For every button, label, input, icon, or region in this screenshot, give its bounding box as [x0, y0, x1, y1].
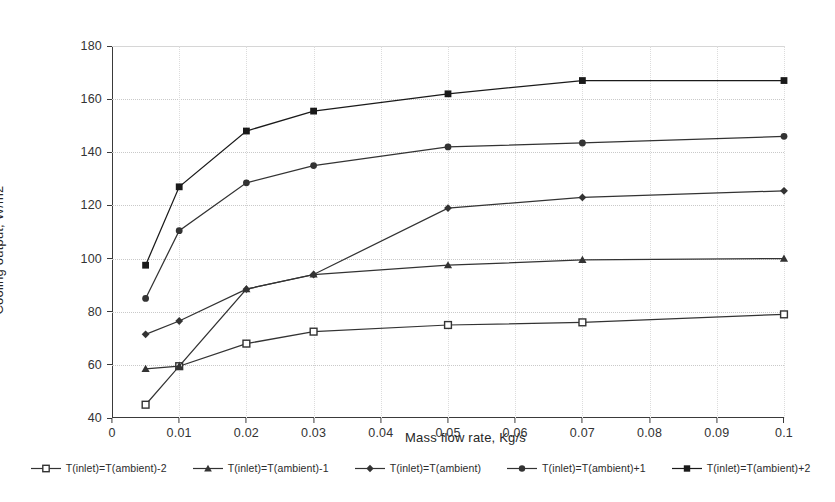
y-tick-label: 180: [81, 39, 107, 53]
x-tick-mark: [649, 418, 650, 423]
chart-figure: 406080100120140160180 00.010.020.030.040…: [0, 0, 835, 502]
y-tick-label: 80: [88, 305, 107, 319]
y-tick-140: 140: [81, 145, 112, 159]
series-line: [146, 191, 784, 334]
data-point: [142, 330, 150, 338]
y-tick-180: 180: [81, 39, 112, 53]
legend-label: T(inlet)=T(ambient)+2: [707, 462, 811, 474]
series-line: [146, 136, 784, 298]
y-tick-60: 60: [88, 358, 112, 372]
y-tick-160: 160: [81, 92, 112, 106]
y-tick-label: 120: [81, 198, 107, 212]
data-point: [781, 77, 788, 84]
x-tick-mark: [246, 418, 247, 423]
data-point: [579, 140, 586, 147]
y-tick-120: 120: [81, 198, 112, 212]
data-point: [176, 227, 183, 234]
legend-item-2[interactable]: T(inlet)=T(ambient): [355, 462, 481, 474]
data-point: [243, 128, 250, 135]
y-tick-label: 100: [81, 252, 107, 266]
x-tick-mark: [313, 418, 314, 423]
data-point: [310, 162, 317, 169]
y-axis-label: Cooling output, W/m2: [0, 150, 6, 350]
series-3: [142, 133, 787, 302]
data-point: [445, 90, 452, 97]
legend-label: T(inlet)=T(ambient): [390, 462, 481, 474]
x-tick-mark: [783, 418, 784, 423]
data-point: [579, 77, 586, 84]
series-line: [146, 259, 784, 369]
plot-area: 406080100120140160180 00.010.020.030.040…: [112, 46, 784, 418]
x-tick-mark: [179, 418, 180, 423]
y-tick-label: 160: [81, 92, 107, 106]
series-2: [142, 187, 788, 338]
series-plot: [112, 46, 784, 418]
y-tick-80: 80: [88, 305, 112, 319]
x-tick-mark: [380, 418, 381, 423]
data-point: [445, 322, 452, 329]
data-point: [781, 311, 788, 318]
data-point: [578, 194, 586, 202]
series-1: [142, 254, 789, 371]
legend-item-0[interactable]: T(inlet)=T(ambient)-2: [31, 462, 167, 474]
legend-marker-icon: [31, 463, 61, 474]
legend-label: T(inlet)=T(ambient)-2: [66, 462, 167, 474]
data-point: [243, 179, 250, 186]
x-tick-mark: [112, 418, 113, 423]
data-point: [142, 262, 149, 269]
data-point: [176, 183, 183, 190]
x-axis-label: Mass flow rate, Kg/s: [0, 430, 835, 445]
legend-item-4[interactable]: T(inlet)=T(ambient)+2: [672, 462, 811, 474]
data-point: [444, 204, 452, 212]
legend-marker-icon: [355, 463, 385, 474]
legend-item-3[interactable]: T(inlet)=T(ambient)+1: [507, 462, 646, 474]
legend-label: T(inlet)=T(ambient)+1: [542, 462, 646, 474]
x-tick-mark: [716, 418, 717, 423]
x-tick-mark: [515, 418, 516, 423]
data-point: [142, 401, 149, 408]
series-line: [146, 314, 784, 404]
data-point: [445, 144, 452, 151]
x-tick-mark: [447, 418, 448, 423]
data-point: [243, 340, 250, 347]
series-line: [146, 81, 784, 266]
data-point: [579, 319, 586, 326]
data-point: [781, 133, 788, 140]
legend-item-1[interactable]: T(inlet)=T(ambient)-1: [193, 462, 329, 474]
y-tick-100: 100: [81, 252, 112, 266]
legend-marker-icon: [507, 463, 537, 474]
data-point: [310, 328, 317, 335]
series-0: [142, 311, 787, 408]
legend-label: T(inlet)=T(ambient)-1: [228, 462, 329, 474]
chart-legend: T(inlet)=T(ambient)-2T(inlet)=T(ambient)…: [0, 462, 835, 474]
legend-marker-icon: [193, 463, 223, 474]
data-point: [310, 108, 317, 115]
data-point: [780, 187, 788, 195]
gridline-x-0.1: [784, 46, 785, 418]
y-tick-label: 60: [88, 358, 107, 372]
data-point: [142, 295, 149, 302]
legend-marker-icon: [672, 463, 702, 474]
data-point: [175, 317, 183, 325]
x-tick-mark: [582, 418, 583, 423]
y-tick-label: 40: [88, 411, 107, 425]
y-tick-label: 140: [81, 145, 107, 159]
series-4: [142, 77, 787, 268]
